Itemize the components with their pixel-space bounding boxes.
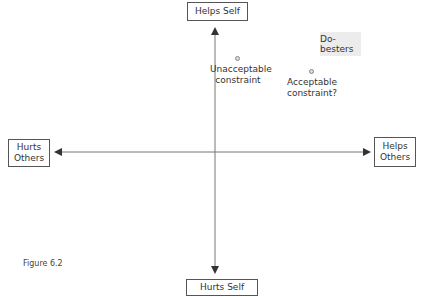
helps-others-line2: Others <box>380 152 410 163</box>
do-besters-region: Do-besters <box>320 32 361 56</box>
figure-caption: Figure 6.2 <box>23 259 63 268</box>
point-label-line1: Acceptable <box>286 77 338 88</box>
point-label-line2: constraint? <box>286 88 338 99</box>
helps-others-box: Helps Others <box>374 137 416 167</box>
hurts-self-box: Hurts Self <box>186 279 258 296</box>
hurts-others-box: Hurts Others <box>8 139 50 167</box>
unacceptable-constraint-label: Unacceptable constraint <box>210 64 266 86</box>
hurts-self-label: Hurts Self <box>200 282 244 293</box>
acceptable-constraint-point <box>309 69 314 74</box>
helps-self-box: Helps Self <box>187 2 248 21</box>
point-label-line1: Unacceptable <box>210 64 266 75</box>
do-besters-label: Do-besters <box>320 34 361 54</box>
hurts-others-line1: Hurts <box>17 142 41 153</box>
helps-self-label: Helps Self <box>195 6 240 17</box>
helps-others-line1: Helps <box>382 141 407 152</box>
hurts-others-line2: Others <box>14 153 44 164</box>
point-label-line2: constraint <box>210 75 266 86</box>
acceptable-constraint-label: Acceptable constraint? <box>286 77 338 99</box>
unacceptable-constraint-point <box>235 56 240 61</box>
